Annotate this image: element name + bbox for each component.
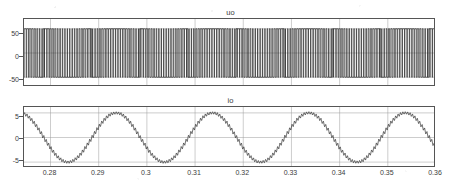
axes-uo bbox=[23, 18, 435, 86]
subplot-uo: uo 50 0 -50 bbox=[0, 0, 461, 92]
xtick-label-0p31: 0.31 bbox=[187, 169, 201, 176]
ytick-label-io-neg5: -5 bbox=[0, 157, 19, 164]
xtick-label-0p35: 0.35 bbox=[380, 169, 394, 176]
xtick-label-0p3: 0.3 bbox=[141, 169, 151, 176]
xtick-label-0p29: 0.29 bbox=[91, 169, 105, 176]
plot-title-uo: uo bbox=[0, 8, 461, 17]
plot-title-io: io bbox=[0, 96, 461, 105]
axes-io bbox=[23, 106, 435, 167]
xtick-label-0p32: 0.32 bbox=[235, 169, 249, 176]
xtick-label-0p36: 0.36 bbox=[428, 169, 442, 176]
figure-root: uo 50 0 -50 io 5 0 -5 0.280.290.30.310.3… bbox=[0, 0, 461, 186]
subplot-io: io 5 0 -5 0.280.290.30.310.320.330.340.3… bbox=[0, 92, 461, 186]
xtick-label-0p33: 0.33 bbox=[284, 169, 298, 176]
ytick-label-uo-0: 0 bbox=[0, 53, 19, 60]
ytick-label-io-0: 0 bbox=[0, 135, 19, 142]
xtick-label-0p34: 0.34 bbox=[332, 169, 346, 176]
xtick-label-0p28: 0.28 bbox=[43, 169, 57, 176]
plot-canvas-io bbox=[24, 107, 435, 167]
ytick-label-io-5: 5 bbox=[0, 113, 19, 120]
ytick-label-uo-neg50: -50 bbox=[0, 76, 19, 83]
ytick-label-uo-50: 50 bbox=[0, 30, 19, 37]
xaxis-tick-labels: 0.280.290.30.310.320.330.340.350.36 bbox=[0, 169, 461, 181]
plot-canvas-uo bbox=[24, 19, 435, 86]
